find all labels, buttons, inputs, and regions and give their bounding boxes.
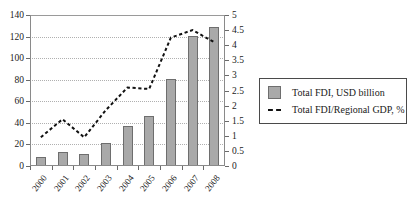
axis-tick xyxy=(225,121,229,122)
chart-legend: Total FDI, USD billion Total FDI/Regiona… xyxy=(259,78,407,124)
x-axis-tick-label: 2000 xyxy=(30,173,49,193)
left-axis-tick-label: 100 xyxy=(10,53,24,63)
left-axis-tick-label: 140 xyxy=(10,10,24,20)
legend-item-total-fdi: Total FDI, USD billion xyxy=(268,84,400,101)
left-axis-tick-label: 60 xyxy=(15,96,25,106)
axis-tick xyxy=(225,106,229,107)
right-axis-line xyxy=(224,15,225,166)
right-axis-tick-label: 2 xyxy=(232,101,237,111)
x-axis-tick-label: 2002 xyxy=(73,173,92,193)
line-series-total-fdi-share xyxy=(30,15,225,166)
right-axis-tick-label: 3.5 xyxy=(232,55,244,65)
right-axis-tick-label: 0.5 xyxy=(232,146,244,156)
plot-area: 020406080100120140 00.511.522.533.544.55… xyxy=(30,15,225,166)
x-axis-tick-label: 2001 xyxy=(51,173,70,193)
x-axis-tick-label: 2003 xyxy=(95,173,114,193)
axis-tick xyxy=(225,15,229,16)
left-axis-tick-label: 40 xyxy=(15,118,25,128)
x-axis-tick-label: 2005 xyxy=(138,173,157,193)
axis-tick xyxy=(73,166,74,170)
axis-tick xyxy=(160,166,161,170)
category-axis-line xyxy=(30,165,225,166)
axis-tick xyxy=(117,166,118,170)
plot-top-border xyxy=(30,15,225,16)
axis-tick xyxy=(30,166,31,170)
right-axis-tick-label: 5 xyxy=(232,10,237,20)
dashed-line-icon xyxy=(268,103,281,116)
line-path xyxy=(41,30,214,137)
left-axis-tick-label: 120 xyxy=(10,32,24,42)
axis-tick xyxy=(225,60,229,61)
left-axis-tick-label: 80 xyxy=(15,75,25,85)
left-axis-tick-label: 20 xyxy=(15,139,25,149)
x-axis-tick-label: 2008 xyxy=(203,173,222,193)
axis-tick xyxy=(225,136,229,137)
axis-tick xyxy=(52,166,53,170)
chart-figure: 020406080100120140 00.511.522.533.544.55… xyxy=(0,0,416,220)
legend-item-fdi-share: Total FDI/Regional GDP, % xyxy=(268,101,400,118)
axis-tick xyxy=(225,166,229,167)
axis-tick xyxy=(225,151,229,152)
right-axis-tick-label: 1 xyxy=(232,131,237,141)
x-axis-tick-label: 2006 xyxy=(160,173,179,193)
right-axis-tick-label: 3 xyxy=(232,70,237,80)
axis-tick xyxy=(225,30,229,31)
right-axis-tick-label: 4.5 xyxy=(232,25,244,35)
right-axis-tick-label: 1.5 xyxy=(232,116,244,126)
bar-swatch-icon xyxy=(268,86,281,99)
right-axis-tick-label: 0 xyxy=(232,161,237,171)
axis-tick xyxy=(138,166,139,170)
left-axis-tick-label: 0 xyxy=(19,161,24,171)
right-axis-tick-label: 2.5 xyxy=(232,86,244,96)
right-axis-tick-label: 4 xyxy=(232,40,237,50)
left-axis-line xyxy=(30,15,31,166)
axis-tick xyxy=(225,91,229,92)
axis-tick xyxy=(225,45,229,46)
x-axis-tick-label: 2007 xyxy=(181,173,200,193)
axis-tick xyxy=(225,75,229,76)
legend-label: Total FDI/Regional GDP, % xyxy=(292,104,405,115)
x-axis-tick-label: 2004 xyxy=(116,173,135,193)
legend-label: Total FDI, USD billion xyxy=(292,87,385,98)
axis-tick xyxy=(182,166,183,170)
axis-tick xyxy=(95,166,96,170)
axis-tick xyxy=(203,166,204,170)
